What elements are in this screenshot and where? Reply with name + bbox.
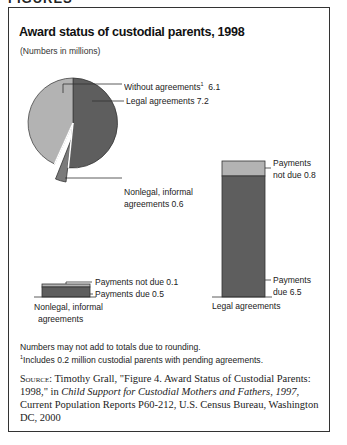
source-publication-title: Child Support for Custodial Mothers and …	[61, 386, 299, 397]
bar-nonlegal-due	[42, 287, 90, 297]
pie-chart	[28, 78, 117, 182]
label-without-value: 6.1	[208, 81, 220, 92]
note-footnote: 1Includes 0.2 million custodial parents …	[20, 354, 263, 365]
bar-legal	[212, 161, 272, 297]
label-nonlegal-category-2: agreements	[38, 313, 83, 325]
label-legal-not-due-2: not due 0.8	[273, 169, 316, 181]
bar-legal-not-due	[222, 161, 265, 176]
source-label: Source:	[20, 373, 52, 384]
label-legal-agreements: Legal agreements 7.2	[126, 95, 209, 107]
label-legal-due-2: due 6.5	[273, 286, 302, 298]
bar-nonlegal-not-due	[42, 284, 90, 287]
label-legal-not-due-1: Payments	[273, 157, 311, 169]
bar-nonlegal	[34, 282, 96, 297]
bar-legal-due	[222, 176, 265, 297]
label-without-agreements: Without agreements1 6.1	[124, 78, 220, 93]
note-rounding: Numbers may not add to totals due to rou…	[20, 341, 201, 352]
label-nonlegal-line1: Nonlegal, informal	[124, 186, 193, 198]
label-nonlegal-not-due: Payments not due 0.1	[95, 276, 178, 288]
footnote-text: Includes 0.2 million custodial parents w…	[23, 354, 263, 365]
source-citation: Source: Timothy Grall, "Figure 4. Award …	[20, 372, 320, 424]
label-nonlegal-category-1: Nonlegal, informal	[34, 301, 103, 313]
source-text-2: Current Population Reports P60-212, U.S.…	[20, 399, 319, 423]
label-without-text: Without agreements	[124, 81, 201, 92]
label-legal-category: Legal agreements	[212, 300, 280, 312]
label-nonlegal-line2: agreements 0.6	[124, 198, 183, 210]
pie-slice-legal	[68, 78, 117, 168]
footnote-mark: 1	[201, 81, 204, 87]
label-nonlegal-due: Payments due 0.5	[95, 288, 164, 300]
label-legal-due-1: Payments	[273, 274, 311, 286]
